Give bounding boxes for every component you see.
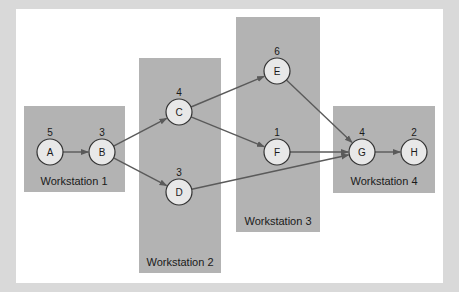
node-label: E xyxy=(274,66,281,77)
node-label: B xyxy=(99,147,106,158)
node-label: C xyxy=(175,107,182,118)
workstation-label: Workstation 2 xyxy=(146,256,213,268)
node-label: H xyxy=(410,147,417,158)
node-task-time: 3 xyxy=(176,167,182,178)
node-task-time: 4 xyxy=(176,87,182,98)
node-label: A xyxy=(47,147,54,158)
node-task-time: 5 xyxy=(47,127,53,138)
node-task-time: 1 xyxy=(274,127,280,138)
node-task-time: 6 xyxy=(274,46,280,57)
workstation-label: Workstation 4 xyxy=(350,175,417,187)
node-task-time: 2 xyxy=(411,127,417,138)
node-task-time: 3 xyxy=(99,127,105,138)
workstation-label: Workstation 3 xyxy=(244,215,311,227)
node-task-time: 4 xyxy=(359,127,365,138)
precedence-diagram: Workstation 1Workstation 2Workstation 3W… xyxy=(0,0,459,292)
node-label: G xyxy=(358,147,366,158)
node-label: F xyxy=(274,147,280,158)
workstation-label: Workstation 1 xyxy=(40,175,107,187)
node-label: D xyxy=(175,187,182,198)
